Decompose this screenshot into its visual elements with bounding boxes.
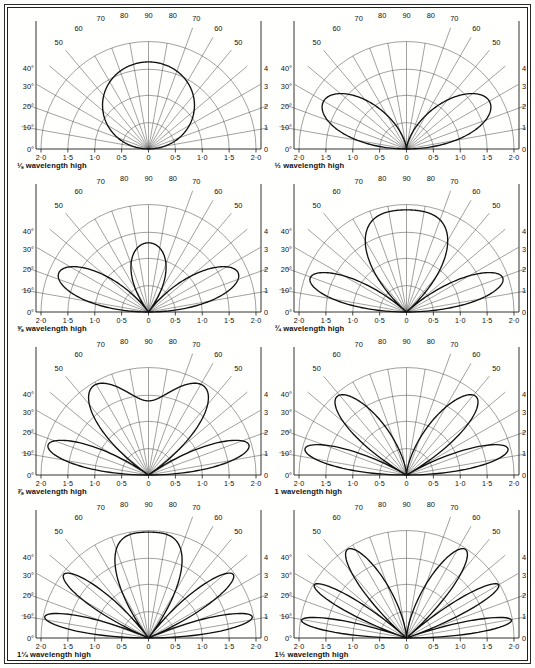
right-angle-label: 20 xyxy=(522,102,526,111)
right-angle-label: 0° xyxy=(522,634,526,643)
polar-panel: 2·01·51·00·500·51·01·52·0506070809080706… xyxy=(269,172,527,335)
right-angle-label: 30 xyxy=(522,82,526,91)
right-angle-label: 30° xyxy=(522,408,526,417)
top-angle-label: 60 xyxy=(75,24,83,33)
right-angle-label: 20° xyxy=(522,265,526,274)
left-angle-label: 30° xyxy=(280,408,291,417)
left-angle-label: 30° xyxy=(23,408,34,417)
right-angle-label: 10° xyxy=(264,449,268,458)
x-tick-label: 0·5 xyxy=(116,642,126,651)
x-tick-label: 0·5 xyxy=(170,316,180,325)
top-angle-label: 50 xyxy=(312,527,320,536)
left-angle-label: 0° xyxy=(284,308,291,317)
x-tick-marks xyxy=(41,638,256,642)
top-angle-label: 60 xyxy=(332,513,340,522)
top-angle-label: 70 xyxy=(192,14,200,23)
x-tick-label: 0 xyxy=(404,153,408,162)
right-angle-label: 40 xyxy=(522,64,526,73)
top-angle-label: 80 xyxy=(426,174,434,183)
left-angle-labels: 40°30°20°10°0° xyxy=(23,227,34,317)
polar-panel: 2·01·51·00·500·51·01·52·0506070809080706… xyxy=(11,498,269,661)
x-tick-label: 2·0 xyxy=(508,316,518,325)
top-angle-label: 50 xyxy=(234,364,242,373)
x-tick-label: 0 xyxy=(147,153,151,162)
top-angle-label: 80 xyxy=(169,11,177,20)
top-angle-label: 60 xyxy=(472,513,480,522)
right-angle-label: 10° xyxy=(264,612,268,621)
panel-caption: 1¼ wavelength high xyxy=(17,650,91,659)
left-angle-label: 30° xyxy=(23,245,34,254)
x-tick-label: 2·0 xyxy=(508,153,518,162)
x-tick-label: 1·0 xyxy=(197,642,207,651)
x-tick-label: 1·5 xyxy=(224,642,234,651)
x-tick-label: 0·5 xyxy=(374,316,384,325)
top-angle-label: 90 xyxy=(144,337,152,346)
polar-grid xyxy=(41,368,256,476)
left-angle-label: 0° xyxy=(284,471,291,480)
polar-grid xyxy=(299,368,514,476)
x-tick-label: 1·0 xyxy=(197,153,207,162)
top-angle-label: 60 xyxy=(75,513,83,522)
right-angle-label: 20° xyxy=(264,265,268,274)
left-angle-label: 30° xyxy=(280,571,291,580)
top-angle-label: 90 xyxy=(402,174,410,183)
x-tick-label: 0 xyxy=(404,642,408,651)
top-angle-label: 90 xyxy=(144,174,152,183)
x-tick-label: 0·5 xyxy=(116,153,126,162)
x-tick-label: 1·0 xyxy=(347,153,357,162)
x-tick-label: 0·5 xyxy=(428,153,438,162)
top-angle-label: 70 xyxy=(192,177,200,186)
panel-caption: ⅞ wavelength high xyxy=(17,487,87,496)
right-angle-label: 30° xyxy=(264,571,268,580)
right-angle-label: 10° xyxy=(522,449,526,458)
polar-chart-5: 2·01·51·00·500·51·01·52·0506070809080706… xyxy=(11,335,268,498)
x-tick-label: 2·0 xyxy=(251,479,261,488)
top-angle-label: 60 xyxy=(214,350,222,359)
top-angle-label: 60 xyxy=(332,350,340,359)
left-angle-labels: 40°30°20°10°0° xyxy=(280,227,291,317)
right-angle-labels: 40°30°20°10°0° xyxy=(522,390,526,480)
top-angle-label: 70 xyxy=(97,14,105,23)
left-angle-label: 20° xyxy=(23,265,34,274)
x-tick-label: 2·0 xyxy=(251,153,261,162)
top-angle-label: 60 xyxy=(214,187,222,196)
x-tick-label: 1·0 xyxy=(455,316,465,325)
top-angle-label: 70 xyxy=(450,340,458,349)
top-angle-label: 80 xyxy=(120,337,128,346)
top-angle-label: 60 xyxy=(332,24,340,33)
left-angle-label: 40° xyxy=(23,553,34,562)
x-tick-label: 1·5 xyxy=(481,153,491,162)
x-tick-label: 0·5 xyxy=(374,479,384,488)
top-angle-label: 70 xyxy=(192,340,200,349)
panel-caption: ¾ wavelength high xyxy=(275,324,345,333)
x-tick-label: 1·0 xyxy=(90,316,100,325)
x-tick-label: 0 xyxy=(404,479,408,488)
x-tick-label: 0 xyxy=(404,316,408,325)
figure-page: 2·01·51·00·500·51·01·52·0506070809080706… xyxy=(0,0,535,668)
right-angle-label: 10° xyxy=(264,123,268,132)
top-angle-label: 80 xyxy=(120,11,128,20)
polar-grid xyxy=(41,531,256,639)
right-angle-label: 0° xyxy=(522,308,526,317)
polar-panel: 2·01·51·00·500·51·01·52·0506070809080706… xyxy=(11,9,269,172)
top-angle-label: 60 xyxy=(472,24,480,33)
left-angle-label: 0° xyxy=(27,634,34,643)
top-angle-label: 60 xyxy=(214,513,222,522)
polar-chart-7: 2·01·51·00·500·51·01·52·0506070809080706… xyxy=(11,498,268,661)
top-angle-label: 50 xyxy=(492,38,500,47)
top-angle-label: 60 xyxy=(75,350,83,359)
panel-caption: ½ wavelength high xyxy=(275,161,345,170)
left-angle-label: 0° xyxy=(284,634,291,643)
left-angle-label: 30° xyxy=(280,82,291,91)
x-tick-label: 1·0 xyxy=(455,642,465,651)
top-angle-label: 80 xyxy=(120,500,128,509)
left-angle-label: 10° xyxy=(23,449,34,458)
top-angle-label: 50 xyxy=(234,201,242,210)
top-angle-label: 50 xyxy=(492,201,500,210)
x-tick-label: 2·0 xyxy=(508,642,518,651)
x-tick-marks xyxy=(299,312,514,316)
right-angle-label: 30° xyxy=(264,408,268,417)
top-angle-label: 50 xyxy=(55,527,63,536)
x-tick-label: 2·0 xyxy=(508,479,518,488)
top-angle-label: 90 xyxy=(402,11,410,20)
